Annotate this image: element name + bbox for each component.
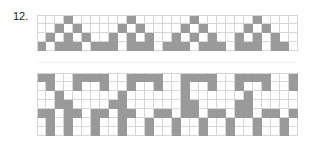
filled-cell — [172, 118, 181, 127]
filled-cell — [181, 100, 190, 109]
empty-cell — [46, 15, 55, 24]
empty-cell — [199, 82, 208, 91]
empty-cell — [163, 15, 172, 24]
filled-cell — [244, 100, 253, 109]
empty-cell — [253, 24, 262, 33]
empty-cell — [208, 118, 217, 127]
empty-cell — [190, 24, 199, 33]
filled-cell — [208, 109, 217, 118]
empty-cell — [109, 127, 118, 136]
empty-cell — [163, 33, 172, 42]
filled-cell — [289, 82, 298, 91]
empty-cell — [46, 24, 55, 33]
filled-cell — [118, 118, 127, 127]
empty-cell — [145, 82, 154, 91]
empty-cell — [172, 100, 181, 109]
empty-cell — [235, 127, 244, 136]
empty-cell — [127, 91, 136, 100]
filled-cell — [181, 24, 190, 33]
empty-cell — [73, 100, 82, 109]
empty-cell — [37, 127, 46, 136]
filled-cell — [289, 109, 298, 118]
filled-cell — [280, 118, 289, 127]
filled-cell — [199, 42, 208, 51]
empty-cell — [145, 91, 154, 100]
filled-cell — [64, 118, 73, 127]
empty-cell — [37, 15, 46, 24]
empty-cell — [235, 118, 244, 127]
empty-cell — [181, 127, 190, 136]
filled-cell — [163, 42, 172, 51]
filled-cell — [226, 118, 235, 127]
empty-cell — [226, 42, 235, 51]
empty-cell — [163, 118, 172, 127]
empty-cell — [73, 91, 82, 100]
empty-cell — [172, 82, 181, 91]
empty-cell — [271, 24, 280, 33]
filled-cell — [235, 42, 244, 51]
empty-cell — [280, 15, 289, 24]
empty-cell — [100, 127, 109, 136]
empty-cell — [253, 82, 262, 91]
empty-cell — [154, 100, 163, 109]
filled-cell — [244, 73, 253, 82]
empty-cell — [289, 127, 298, 136]
empty-cell — [136, 82, 145, 91]
empty-cell — [217, 118, 226, 127]
empty-cell — [262, 127, 271, 136]
filled-cell — [199, 73, 208, 82]
filled-cell — [244, 91, 253, 100]
filled-cell — [100, 42, 109, 51]
empty-cell — [199, 109, 208, 118]
empty-cell — [226, 73, 235, 82]
empty-cell — [190, 91, 199, 100]
section-divider — [37, 62, 298, 63]
filled-cell — [253, 42, 262, 51]
filled-cell — [82, 73, 91, 82]
filled-cell — [253, 118, 262, 127]
filled-cell — [199, 127, 208, 136]
empty-cell — [262, 33, 271, 42]
filled-cell — [145, 118, 154, 127]
empty-cell — [37, 118, 46, 127]
filled-cell — [235, 100, 244, 109]
filled-cell — [289, 73, 298, 82]
empty-cell — [127, 24, 136, 33]
empty-cell — [280, 73, 289, 82]
empty-cell — [217, 127, 226, 136]
filled-cell — [64, 33, 73, 42]
empty-cell — [82, 109, 91, 118]
filled-cell — [73, 82, 82, 91]
filled-cell — [217, 42, 226, 51]
empty-cell — [145, 15, 154, 24]
filled-cell — [91, 42, 100, 51]
empty-cell — [226, 33, 235, 42]
empty-cell — [55, 118, 64, 127]
filled-cell — [55, 24, 64, 33]
filled-cell — [64, 100, 73, 109]
filled-cell — [253, 127, 262, 136]
empty-cell — [154, 91, 163, 100]
empty-cell — [289, 91, 298, 100]
empty-cell — [82, 91, 91, 100]
empty-cell — [217, 73, 226, 82]
filled-cell — [100, 82, 109, 91]
empty-cell — [64, 24, 73, 33]
empty-cell — [163, 127, 172, 136]
filled-cell — [136, 73, 145, 82]
empty-cell — [172, 73, 181, 82]
filled-cell — [253, 73, 262, 82]
empty-cell — [163, 91, 172, 100]
filled-cell — [280, 127, 289, 136]
empty-cell — [289, 15, 298, 24]
empty-cell — [262, 15, 271, 24]
empty-cell — [244, 82, 253, 91]
empty-cell — [217, 82, 226, 91]
empty-cell — [127, 100, 136, 109]
empty-cell — [100, 100, 109, 109]
empty-cell — [136, 100, 145, 109]
empty-cell — [145, 100, 154, 109]
filled-cell — [253, 33, 262, 42]
empty-cell — [82, 42, 91, 51]
filled-cell — [145, 127, 154, 136]
